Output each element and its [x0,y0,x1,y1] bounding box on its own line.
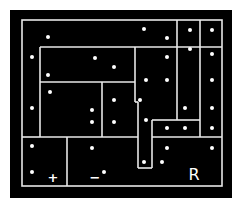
cell-dot[interactable] [165,36,169,40]
board-border [22,20,222,186]
cell-dot[interactable] [46,73,50,77]
game-board[interactable]: + − R [10,10,232,198]
plus-operator-label: + [46,171,60,184]
cell-dot[interactable] [165,55,169,59]
cell-dot[interactable] [30,144,34,148]
cell-dot[interactable] [112,65,116,69]
cell-dot[interactable] [90,120,94,124]
cell-dot[interactable] [165,146,169,150]
cell-dot[interactable] [144,118,148,122]
cell-dot[interactable] [30,55,34,59]
cell-dot[interactable] [30,170,34,174]
cell-dot[interactable] [142,160,146,164]
cell-dot[interactable] [112,120,116,124]
cell-dot[interactable] [48,90,52,94]
cell-dot[interactable] [165,126,169,130]
region-r-label: R [186,167,202,183]
cell-dot[interactable] [142,27,146,31]
minus-operator-label: − [88,171,102,184]
cell-dot[interactable] [210,126,214,130]
cell-dot[interactable] [93,56,97,60]
cell-dot[interactable] [160,160,164,164]
cell-dot[interactable] [138,98,142,102]
cell-dot[interactable] [210,52,214,56]
cell-dot[interactable] [90,146,94,150]
cell-dot[interactable] [183,126,187,130]
cell-dot[interactable] [210,28,214,32]
cell-dot[interactable] [165,78,169,82]
cell-dot[interactable] [210,146,214,150]
cell-dot[interactable] [46,35,50,39]
cell-dot[interactable] [30,106,34,110]
cell-dot[interactable] [210,106,214,110]
cell-dot[interactable] [188,28,192,32]
cell-dot[interactable] [90,108,94,112]
cell-dot[interactable] [183,106,187,110]
cell-dot[interactable] [102,170,106,174]
cell-dot[interactable] [188,47,192,51]
cell-dot[interactable] [144,78,148,82]
cell-dot[interactable] [210,78,214,82]
cell-dot[interactable] [112,98,116,102]
